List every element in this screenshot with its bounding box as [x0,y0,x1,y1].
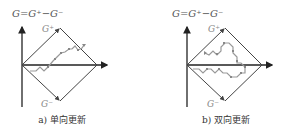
diagram-unidirectional [0,0,142,131]
g-plus-vector [22,29,59,65]
equation-title: G=G⁺−G⁻ [12,8,63,19]
g-plus-label: G⁺ [42,24,54,34]
caption-a: a) 单向更新 [38,113,86,126]
g-plus-vector [187,29,224,65]
g-minus-label: G⁻ [41,99,53,109]
g-minus-vector [22,65,59,100]
g-plus-label: G⁺ [208,24,220,34]
equation-title: G=G⁺−G⁻ [172,8,223,19]
g-minus-label: G⁻ [207,99,219,109]
diagram-bidirectional [143,0,285,131]
caption-b: b) 双向更新 [202,113,250,126]
panel-unidirectional: G=G⁺−G⁻ G⁺ G⁻ a) 单向更新 [0,0,142,131]
panel-bidirectional: G=G⁺−G⁻ G⁺ G⁻ b) 双向更新 [143,0,285,131]
